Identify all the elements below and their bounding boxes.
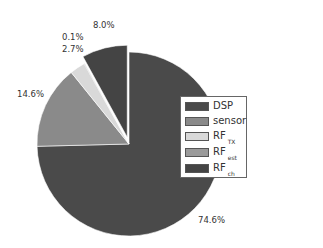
legend-label-rf-ch: RFch <box>213 162 235 180</box>
legend-item-rf-est: RFest <box>185 146 237 158</box>
label-sensor: 14.6% <box>17 89 44 99</box>
legend-item-rf-ch: RFch <box>185 162 235 174</box>
legend-swatch-rf-tx <box>185 132 209 141</box>
pie-chart <box>0 0 323 248</box>
legend-item-rf-tx: RFTX <box>185 130 235 142</box>
legend-swatch-dsp <box>185 102 209 111</box>
legend-label-sensor: sensor <box>213 115 246 127</box>
legend-swatch-sensor <box>185 117 209 126</box>
legend-swatch-rf-ch <box>185 164 209 173</box>
legend: DSP sensor RFTX RFest RFch <box>180 96 247 178</box>
legend-swatch-rf-est <box>185 148 209 157</box>
label-rf-est: 0.1% <box>62 32 84 42</box>
legend-item-sensor: sensor <box>185 115 246 127</box>
legend-label-dsp: DSP <box>213 100 233 112</box>
label-dsp: 74.6% <box>198 215 225 225</box>
legend-item-dsp: DSP <box>185 100 233 112</box>
label-rf-ch: 8.0% <box>93 20 115 30</box>
label-rf-tx: 2.7% <box>62 44 84 54</box>
